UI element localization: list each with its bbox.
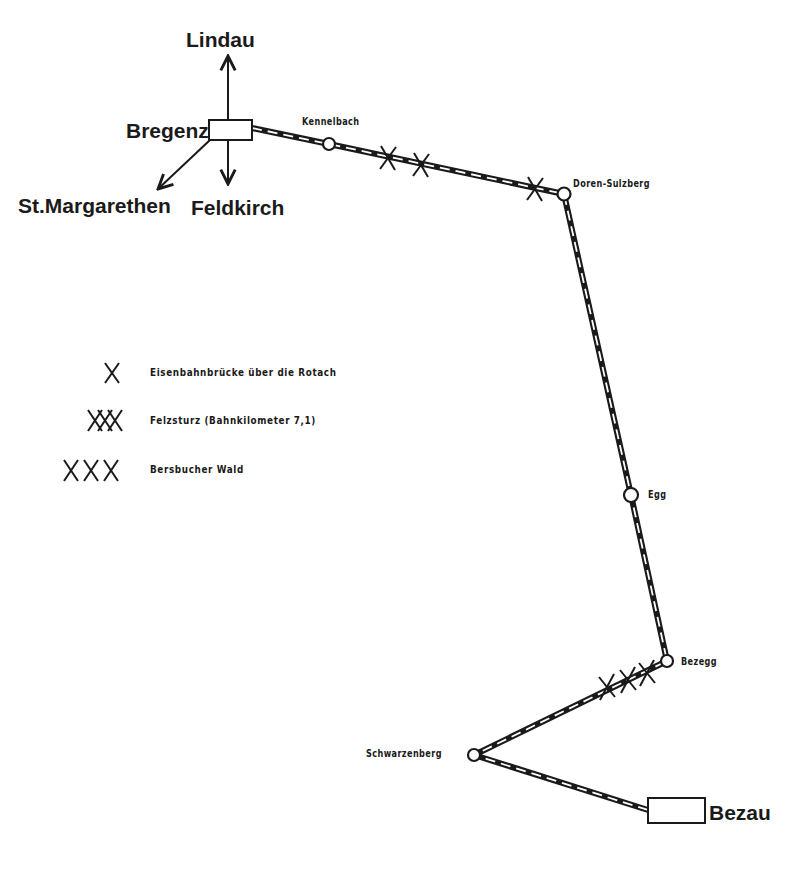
- station-marker-doren-sulzberg: [558, 188, 571, 201]
- legend-label-felzsturz: Felzsturz (Bahnkilometer 7,1): [150, 415, 316, 426]
- station-box-bregenz: [209, 120, 252, 140]
- station-label-bezegg: Bezegg: [681, 656, 717, 667]
- direction-label-feldkirch: Feldkirch: [191, 197, 284, 218]
- direction-label-lindau: Lindau: [186, 29, 255, 50]
- legend-x-icon: [105, 363, 119, 383]
- legend-xx-icon: [88, 410, 122, 431]
- legend-label-bersbucher-wald: Bersbucher Wald: [150, 464, 244, 475]
- station-label-egg: Egg: [648, 489, 666, 500]
- station-label-bregenz: Bregenz: [126, 120, 209, 141]
- map-graphics: [0, 0, 807, 874]
- legend-xxx-icon: [64, 460, 118, 481]
- station-label-doren-sulzberg: Doren-Sulzberg: [573, 178, 650, 189]
- legend-symbols: [64, 363, 122, 481]
- station-marker-egg: [624, 488, 638, 502]
- station-marker-schwarzenberg: [468, 749, 480, 761]
- station-marker-kennelbach: [323, 138, 335, 150]
- station-marker-bezegg: [661, 655, 673, 667]
- station-label-bezau: Bezau: [709, 802, 771, 823]
- station-box-bezau: [648, 798, 705, 823]
- legend-label-bridge: Eisenbahnbrücke über die Rotach: [150, 367, 337, 378]
- station-label-kennelbach: Kennelbach: [302, 116, 359, 127]
- railway-track: [252, 128, 667, 810]
- railway-map: Lindau Bregenz St.Margarethen Feldkirch …: [0, 0, 807, 874]
- arrow-down-left-icon: [158, 140, 210, 189]
- direction-label-st-margarethen: St.Margarethen: [18, 195, 171, 216]
- station-label-schwarzenberg: Schwarzenberg: [366, 748, 442, 759]
